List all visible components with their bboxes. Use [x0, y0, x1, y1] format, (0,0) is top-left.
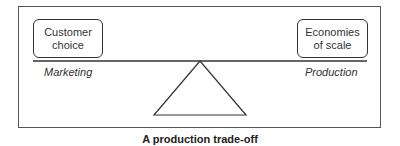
- fulcrum-triangle: [154, 61, 246, 115]
- economies-of-scale-box: Economies of scale: [297, 19, 368, 58]
- figure-caption: A production trade-off: [0, 133, 400, 145]
- customer-choice-box: Customer choice: [33, 19, 103, 58]
- economies-of-scale-line2: of scale: [314, 39, 352, 52]
- production-label: Production: [305, 66, 358, 78]
- economies-of-scale-line1: Economies: [305, 26, 359, 39]
- customer-choice-line1: Customer: [44, 26, 92, 39]
- customer-choice-line2: choice: [52, 39, 84, 52]
- marketing-label: Marketing: [44, 66, 92, 78]
